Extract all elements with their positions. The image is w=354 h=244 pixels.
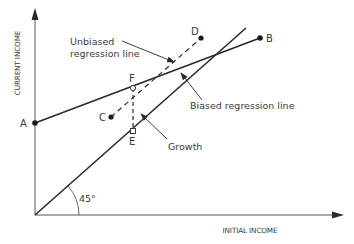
angle-arc — [68, 186, 79, 215]
label-f: F — [129, 73, 135, 84]
x-axis-arrow-icon — [332, 212, 344, 219]
point-e — [131, 129, 136, 134]
x-axis — [35, 212, 344, 219]
label-d: D — [191, 26, 199, 37]
label-e: E — [129, 136, 135, 147]
biased-label: Biased regression line — [190, 100, 295, 111]
x-axis-label: INITIAL INCOME — [223, 226, 278, 235]
label-b: B — [266, 33, 273, 44]
point-f — [130, 85, 135, 90]
point-d — [198, 35, 203, 40]
point-b — [257, 35, 263, 41]
label-c: C — [99, 112, 106, 123]
y-axis — [32, 8, 39, 215]
growth-label: Growth — [168, 141, 202, 152]
growth-pointer-arrow — [141, 114, 167, 139]
point-c — [108, 114, 113, 119]
unbiased-label-line1: Unbiased — [70, 36, 114, 47]
unbiased-label-line2: regression line — [70, 48, 140, 59]
regression-bias-diagram: CURRENT INCOME INITIAL INCOME 45° A B C … — [0, 0, 354, 244]
label-a: A — [20, 118, 27, 129]
point-a — [32, 120, 38, 126]
y-axis-label: CURRENT INCOME — [13, 30, 22, 95]
angle-label: 45° — [79, 193, 96, 204]
y-axis-arrow-icon — [32, 8, 39, 20]
